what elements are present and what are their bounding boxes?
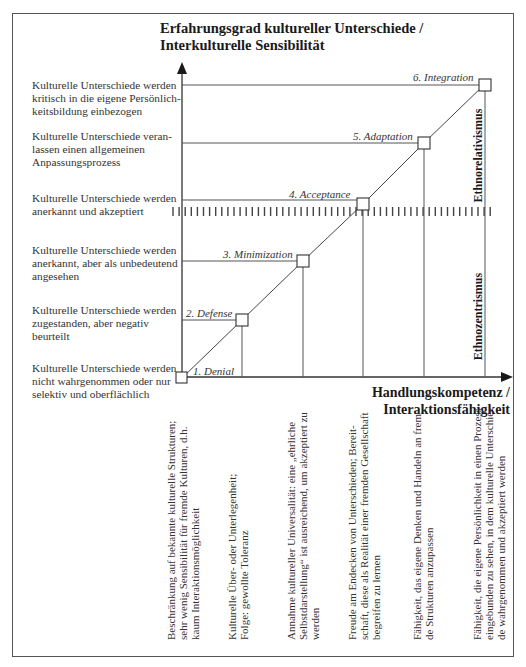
marker-integration bbox=[479, 79, 491, 91]
progression-line bbox=[182, 84, 485, 378]
marker-minimization bbox=[297, 255, 309, 267]
competency-defense: Kulturelle Über- oder Unterlegenheit; Fo… bbox=[226, 474, 250, 640]
era-label-ethnorelativismus: Ethnorelativismus bbox=[471, 106, 486, 206]
competency-adaptation: Fähigkeit, das eigene Denken und Handeln… bbox=[411, 410, 435, 640]
stage-label-defense: 2. Defense bbox=[186, 307, 233, 319]
marker-adaptation bbox=[418, 137, 430, 149]
era-separator bbox=[173, 207, 490, 216]
level-4-description: Kulturelle Unterschiede werden anerkannt… bbox=[32, 192, 182, 218]
competency-minimization: Annahme kultureller Universalität: eine … bbox=[285, 412, 322, 640]
level-lines bbox=[182, 85, 479, 320]
stage-label-integration: 6. Integration bbox=[413, 71, 474, 83]
level-5-description: Kulturelle Unterschiede veran- lassen ei… bbox=[32, 130, 182, 169]
y-axis-arrow-icon bbox=[177, 62, 187, 74]
stage-label-adaptation: 5. Adaptation bbox=[353, 130, 413, 142]
stage-label-acceptance: 4. Acceptance bbox=[289, 188, 351, 200]
stage-label-minimization: 3. Minimization bbox=[222, 248, 293, 260]
marker-acceptance bbox=[357, 198, 369, 210]
competency-integration: Fähigkeit, die eigene Persönlichkeit in … bbox=[471, 408, 508, 640]
x-axis-arrow-icon bbox=[501, 372, 513, 382]
competency-denial: Beschränkung auf bekannte kulturelle Str… bbox=[165, 421, 202, 640]
competency-acceptance: Freude am Endecken von Unterschieden; Be… bbox=[346, 412, 383, 640]
level-2-description: Kulturelle Unterschiede werden zugestand… bbox=[32, 304, 182, 343]
level-6-description: Kulturelle Unterschiede werden kritisch … bbox=[32, 79, 182, 118]
level-3-description: Kulturelle Unterschiede werden anerkannt… bbox=[32, 244, 182, 283]
stage-markers bbox=[176, 79, 491, 383]
marker-defense bbox=[236, 314, 248, 326]
era-label-ethnozentrismus: Ethnozentrismus bbox=[471, 267, 486, 367]
level-1-description: Kulturelle Unterschiede werden nicht wah… bbox=[32, 362, 182, 401]
stage-label-denial: 1. Denial bbox=[193, 365, 234, 377]
